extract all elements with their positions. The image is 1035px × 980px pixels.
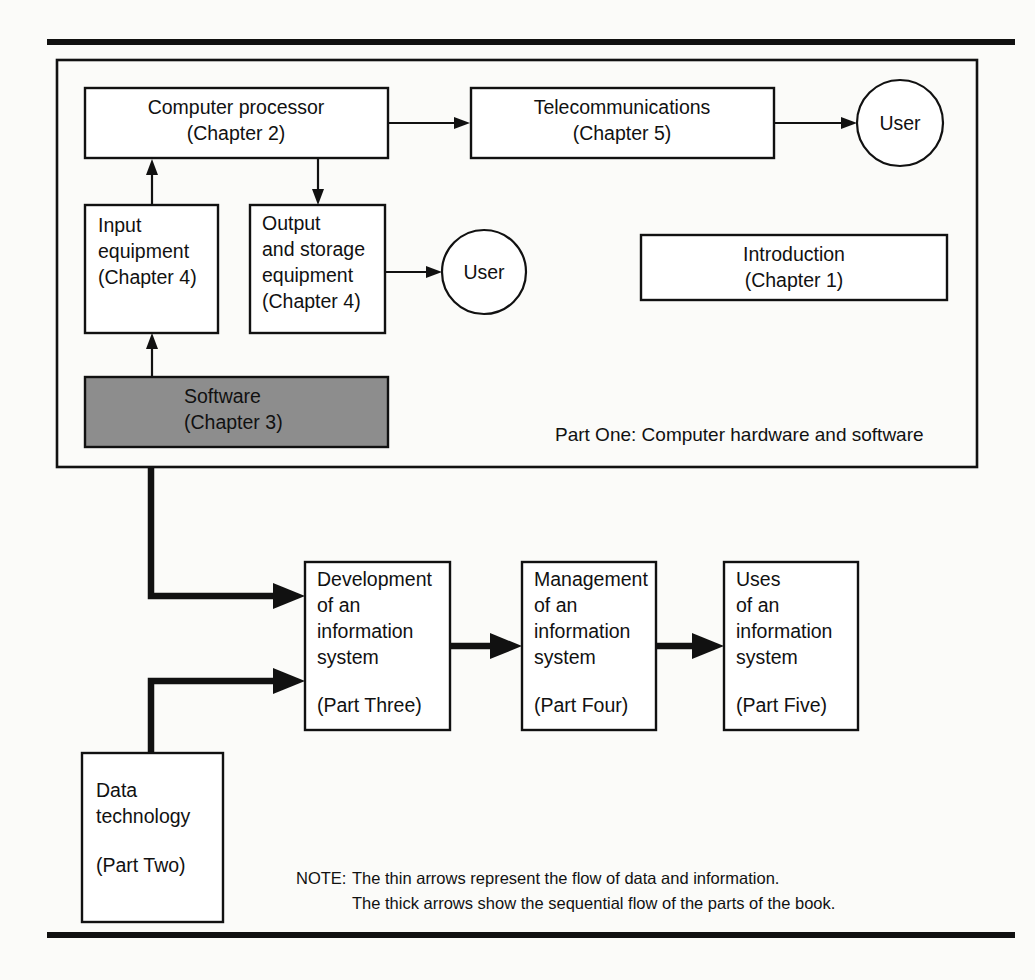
management-line4: system xyxy=(534,646,596,668)
box-input-equipment: Input equipment (Chapter 4) xyxy=(85,205,218,333)
computer-processor-line1: Computer processor xyxy=(148,96,325,118)
book-structure-diagram: Computer processor (Chapter 2) Telecommu… xyxy=(0,0,1035,980)
thick-arrow-software-to-development xyxy=(151,467,305,609)
user-middle-label: User xyxy=(463,261,505,283)
input-equipment-line3: (Chapter 4) xyxy=(98,266,197,288)
box-introduction: Introduction (Chapter 1) xyxy=(641,235,947,300)
management-line2: of an xyxy=(534,594,577,616)
part-one-caption: Part One: Computer hardware and software xyxy=(555,424,924,445)
arrow-telecom-to-user xyxy=(774,117,857,129)
user-top-label: User xyxy=(879,112,921,134)
development-line3: information xyxy=(317,620,413,642)
computer-processor-line2: (Chapter 2) xyxy=(187,122,286,144)
introduction-line2: (Chapter 1) xyxy=(745,269,844,291)
development-line5: (Part Three) xyxy=(317,694,422,716)
software-line2: (Chapter 3) xyxy=(184,411,283,433)
input-equipment-line1: Input xyxy=(98,214,142,236)
software-line1: Software xyxy=(184,385,261,407)
box-data-technology: Data technology (Part Two) xyxy=(82,753,223,922)
development-line2: of an xyxy=(317,594,360,616)
box-software: Software (Chapter 3) xyxy=(85,377,388,447)
bottom-rule xyxy=(47,932,1015,938)
telecommunications-line2: (Chapter 5) xyxy=(573,122,672,144)
arrow-processor-to-output xyxy=(312,158,324,205)
uses-line5: (Part Five) xyxy=(736,694,827,716)
note-line1: The thin arrows represent the flow of da… xyxy=(352,869,779,887)
note-line2: The thick arrows show the sequential flo… xyxy=(352,894,835,912)
thick-arrow-datatech-to-development xyxy=(151,668,305,753)
data-technology-line3: (Part Two) xyxy=(96,854,186,876)
uses-line4: system xyxy=(736,646,798,668)
management-line5: (Part Four) xyxy=(534,694,628,716)
output-storage-line2: and storage xyxy=(262,238,365,260)
output-storage-line4: (Chapter 4) xyxy=(262,290,361,312)
arrow-output-to-user xyxy=(385,266,442,278)
note-label: NOTE: xyxy=(296,869,346,887)
development-line1: Development xyxy=(317,568,432,590)
uses-line2: of an xyxy=(736,594,779,616)
note-block: NOTE: The thin arrows represent the flow… xyxy=(296,869,835,912)
diagram-root: Computer processor (Chapter 2) Telecommu… xyxy=(0,0,1035,980)
uses-line3: information xyxy=(736,620,832,642)
box-development: Development of an information system (Pa… xyxy=(305,562,450,730)
box-computer-processor: Computer processor (Chapter 2) xyxy=(85,88,388,158)
arrow-processor-to-telecom xyxy=(388,117,470,129)
input-equipment-line2: equipment xyxy=(98,240,190,262)
data-technology-line2: technology xyxy=(96,805,191,827)
box-management: Management of an information system (Par… xyxy=(522,562,656,730)
circle-user-middle: User xyxy=(442,230,526,314)
uses-line1: Uses xyxy=(736,568,781,590)
management-line3: information xyxy=(534,620,630,642)
development-line4: system xyxy=(317,646,379,668)
data-technology-line1: Data xyxy=(96,779,137,801)
box-telecommunications: Telecommunications (Chapter 5) xyxy=(471,88,774,158)
circle-user-top: User xyxy=(857,80,943,166)
output-storage-line1: Output xyxy=(262,212,321,234)
thick-arrow-management-to-uses xyxy=(656,633,724,659)
telecommunications-line1: Telecommunications xyxy=(534,96,711,118)
introduction-line1: Introduction xyxy=(743,243,845,265)
box-output-storage-equipment: Output and storage equipment (Chapter 4) xyxy=(250,205,385,333)
thick-arrow-development-to-management xyxy=(450,633,522,659)
arrow-software-to-input xyxy=(146,333,158,377)
top-rule xyxy=(47,39,1015,45)
management-line1: Management xyxy=(534,568,648,590)
output-storage-line3: equipment xyxy=(262,264,354,286)
box-uses: Uses of an information system (Part Five… xyxy=(724,562,858,730)
arrow-input-to-processor xyxy=(146,159,158,205)
